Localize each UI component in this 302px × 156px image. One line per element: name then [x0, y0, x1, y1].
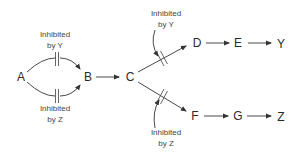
arrow-a-b-upper — [27, 58, 56, 72]
node-d: D — [193, 37, 202, 49]
label-line2: by Z — [40, 114, 70, 125]
label-line2: by Y — [40, 40, 70, 51]
label-line1: Inhibited — [40, 29, 70, 40]
node-c: C — [126, 71, 135, 83]
label-cd-inhibited-by-y: Inhibited by Y — [151, 8, 181, 30]
inhibition-pointer-cf — [154, 100, 159, 128]
label-line1: Inhibited — [151, 8, 181, 19]
inhibition-pointer-cd — [153, 30, 158, 56]
label-line2: by Y — [151, 19, 181, 30]
arrow-c-f — [138, 82, 186, 111]
node-b: B — [84, 71, 92, 83]
node-e: E — [234, 37, 242, 49]
label-ab-lower-inhibited-by-z: Inhibited by Z — [40, 103, 70, 125]
node-z: Z — [277, 111, 284, 123]
node-y: Y — [277, 38, 285, 50]
node-a: A — [17, 71, 25, 83]
label-ab-upper-inhibited-by-y: Inhibited by Y — [40, 29, 70, 51]
arrow-a-b-lower — [27, 82, 56, 96]
arrow-c-d — [138, 46, 186, 72]
node-f: F — [191, 110, 198, 122]
node-g: G — [233, 110, 242, 122]
label-line1: Inhibited — [151, 127, 181, 138]
label-cf-inhibited-by-z: Inhibited by Z — [151, 127, 181, 149]
label-line1: Inhibited — [40, 103, 70, 114]
label-line2: by Z — [151, 138, 181, 149]
